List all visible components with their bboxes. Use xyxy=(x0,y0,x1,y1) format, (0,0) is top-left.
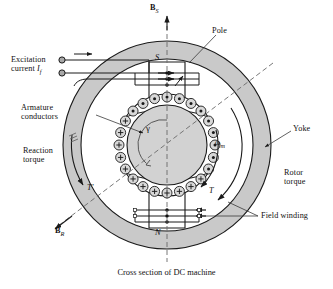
armature-conductor xyxy=(128,106,138,116)
rotor-torque-arrow xyxy=(218,108,242,200)
rotor-torque-label: Rotortorque xyxy=(284,168,306,186)
armature-conductor xyxy=(128,174,138,184)
excitation-current-label: Excitationcurrent If xyxy=(11,55,46,76)
armature-conductor xyxy=(174,186,184,196)
reaction-torque-label: Reactiontorque xyxy=(23,146,53,164)
armature-conductors-label: Armatureconductors xyxy=(21,103,58,121)
conductor-out-of-page-mark xyxy=(132,110,135,113)
yoke-label: Yoke xyxy=(293,124,310,133)
pole-letter-s: S xyxy=(155,53,159,62)
armature-conductor xyxy=(186,182,196,192)
figure-caption: Cross section of DC machine xyxy=(0,268,333,277)
armature-conductor xyxy=(138,182,148,192)
armature-conductor xyxy=(150,186,160,196)
br-axis-label: BR xyxy=(55,226,64,238)
reaction-torque-symbol: T′ xyxy=(87,183,94,192)
conductor-out-of-page-mark xyxy=(153,97,156,100)
conductor-out-of-page-mark xyxy=(207,120,210,123)
pole-label: Pole xyxy=(212,26,227,35)
field-winding-label: Field winding xyxy=(261,211,308,220)
armature-conductor xyxy=(186,98,196,108)
armature-conductor xyxy=(120,116,130,126)
omega-m-label: ωm xyxy=(215,139,225,150)
armature-conductor xyxy=(196,174,206,184)
conductor-out-of-page-mark xyxy=(178,97,181,100)
bs-axis-label: BS xyxy=(150,3,159,15)
dc-machine-cross-section-drawing xyxy=(0,0,333,289)
pole-letter-n: N xyxy=(155,228,161,237)
conductor-out-of-page-mark xyxy=(212,156,215,159)
armature-conductor xyxy=(150,94,160,104)
terminal-dot-bottom xyxy=(59,70,65,76)
armature-conductor xyxy=(114,140,124,150)
dc-machine-figure: BS Pole Excitationcurrent If Armaturecon… xyxy=(0,0,333,289)
armature-conductor xyxy=(116,128,126,138)
conductor-out-of-page-mark xyxy=(190,102,193,105)
gamma-angle-label: γ xyxy=(146,123,150,133)
armature-conductor xyxy=(138,98,148,108)
armature-conductor xyxy=(174,94,184,104)
terminal-dot-top xyxy=(59,57,65,63)
conductor-out-of-page-mark xyxy=(199,110,202,113)
armature-conductor xyxy=(204,116,214,126)
rotor-torque-symbol: T xyxy=(209,186,214,195)
armature-conductor xyxy=(196,106,206,116)
conductor-out-of-page-mark xyxy=(142,102,145,105)
conductor-out-of-page-mark xyxy=(207,168,210,171)
armature-conductor xyxy=(116,152,126,162)
conductor-out-of-page-mark xyxy=(212,131,215,134)
